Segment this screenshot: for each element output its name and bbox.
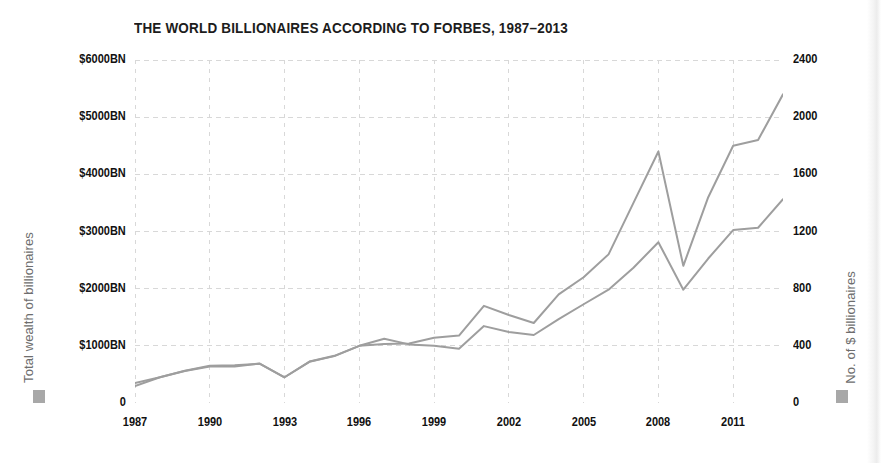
legend-swatch-number-of-billionaires bbox=[836, 390, 848, 403]
x-axis-tick-label: 1993 bbox=[249, 415, 319, 429]
x-axis-tick-label: 2005 bbox=[548, 415, 618, 429]
x-axis: 198719901993199619992002200520082011 bbox=[0, 0, 881, 463]
x-axis-tick-label: 2002 bbox=[474, 415, 544, 429]
x-axis-tick-label: 2011 bbox=[698, 415, 768, 429]
y-axis-left-title: Total wealth of billionaires bbox=[21, 218, 36, 398]
legend-swatch-total-wealth bbox=[33, 390, 45, 403]
x-axis-tick-label: 1987 bbox=[100, 415, 170, 429]
x-axis-tick-label: 1990 bbox=[175, 415, 245, 429]
x-axis-tick-label: 1999 bbox=[399, 415, 469, 429]
chart-page: THE WORLD BILLIONAIRES ACCORDING TO FORB… bbox=[0, 0, 881, 463]
x-axis-tick-label: 1996 bbox=[324, 415, 394, 429]
x-axis-tick-label: 2008 bbox=[623, 415, 693, 429]
